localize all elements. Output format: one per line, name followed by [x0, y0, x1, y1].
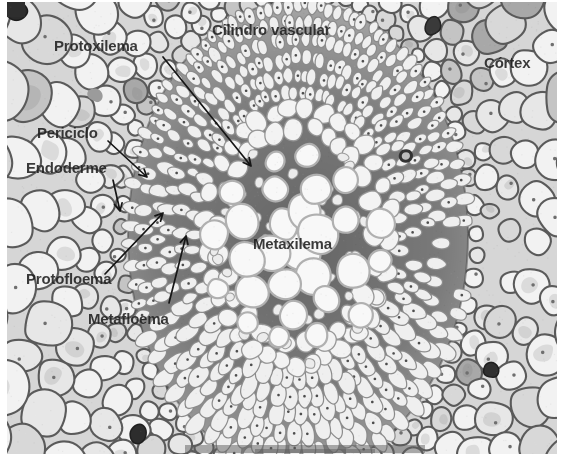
micrograph-figure: ProtoxilemaCilindro vascularCórtexPerici… [0, 0, 585, 469]
micrograph-photo [0, 0, 585, 469]
